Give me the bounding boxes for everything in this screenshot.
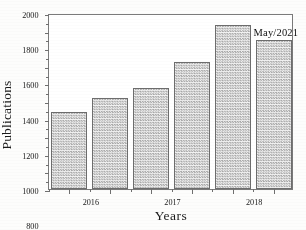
- y-axis-minor-tick: [46, 147, 49, 148]
- plot-frame: 0200400600800100012001400160018002000201…: [48, 14, 293, 190]
- y-axis-tick: 1800: [45, 33, 50, 34]
- bar-2016: [51, 112, 87, 189]
- x-axis-tick-label: 2017: [164, 199, 180, 207]
- y-axis-tick-label: 1000: [22, 188, 38, 196]
- y-axis-tick: 1200: [45, 85, 50, 86]
- y-axis-tick: 800: [45, 121, 50, 122]
- x-axis-tick-label: 2016: [83, 199, 99, 207]
- publications-bar-chart: Publications 020040060080010001200140016…: [0, 0, 306, 230]
- y-axis-tick-label: 1400: [22, 117, 38, 125]
- y-axis-minor-tick: [46, 165, 49, 166]
- x-axis-minor-tick: [172, 189, 173, 192]
- plot-area: 0200400600800100012001400160018002000201…: [49, 15, 292, 189]
- y-axis-minor-tick: [46, 77, 49, 78]
- bar-2018: [133, 88, 169, 189]
- y-axis-minor-tick: [46, 94, 49, 95]
- y-axis-tick: 1000: [45, 103, 50, 104]
- bar-2020: [215, 25, 251, 189]
- x-axis-tick-label: 2018: [246, 199, 262, 207]
- chart-annotation: May/2021: [254, 27, 299, 38]
- y-axis-tick: 400: [45, 156, 50, 157]
- y-axis-minor-tick: [46, 24, 49, 25]
- x-axis-title: Years: [48, 208, 294, 224]
- y-axis-tick-label: 1600: [22, 82, 38, 90]
- x-axis-minor-tick: [49, 189, 50, 192]
- y-axis-minor-tick: [46, 129, 49, 130]
- x-axis-tick: 2018: [151, 189, 152, 194]
- y-axis-title: Publications: [0, 0, 22, 230]
- y-axis-tick: 200: [45, 173, 50, 174]
- x-axis-tick: 2016: [69, 189, 70, 194]
- x-axis-minor-tick: [253, 189, 254, 192]
- y-axis-tick-label: 2000: [22, 12, 38, 20]
- y-axis-tick: 1600: [45, 50, 50, 51]
- y-axis-minor-tick: [46, 41, 49, 42]
- bar-2017: [92, 98, 128, 189]
- y-axis-minor-tick: [46, 59, 49, 60]
- x-axis-tick: 2021: [274, 189, 275, 194]
- x-axis-minor-tick: [90, 189, 91, 192]
- y-axis-minor-tick: [46, 182, 49, 183]
- y-axis-tick: 1400: [45, 68, 50, 69]
- bar-2021: [256, 40, 292, 189]
- x-axis-minor-tick: [131, 189, 132, 192]
- y-axis-tick-label: 800: [26, 223, 38, 230]
- y-axis-tick: 600: [45, 138, 50, 139]
- y-axis-tick-label: 1800: [22, 47, 38, 55]
- y-axis-minor-tick: [46, 112, 49, 113]
- bar-2019: [174, 62, 210, 189]
- x-axis-tick: 2017: [110, 189, 111, 194]
- x-axis-tick: 2019: [192, 189, 193, 194]
- y-axis-tick-label: 1200: [22, 153, 38, 161]
- x-axis-tick: 2020: [233, 189, 234, 194]
- y-axis-tick: 2000: [45, 15, 50, 16]
- x-axis-minor-tick: [212, 189, 213, 192]
